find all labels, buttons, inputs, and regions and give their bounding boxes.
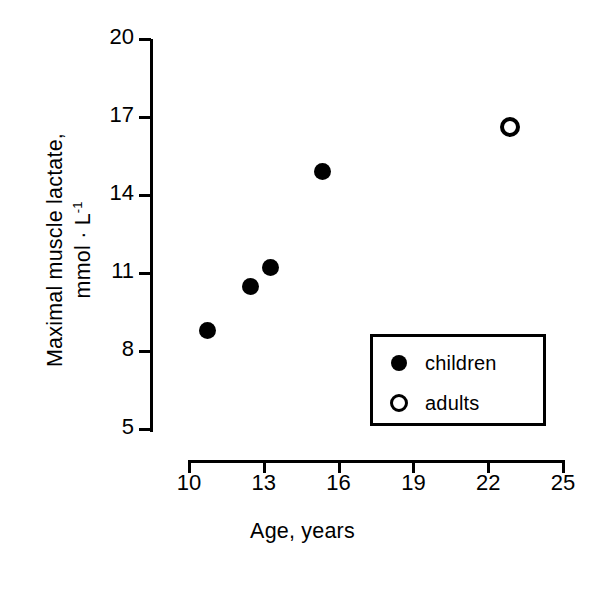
data-point-adults-0	[500, 117, 520, 137]
y-tick-label-20: 20	[88, 26, 134, 48]
y-tick-label-17: 17	[88, 104, 134, 126]
y-tick-label-8: 8	[88, 338, 134, 360]
y-axis-label-line-2: mmol · L-1	[70, 202, 98, 299]
x-tick-label-19: 19	[390, 472, 436, 494]
legend-label-children: children	[425, 352, 497, 375]
y-tick-label-11: 11	[88, 260, 134, 282]
x-tick-label-22: 22	[465, 472, 511, 494]
y-tick-17	[139, 116, 151, 119]
y-tick-label-14: 14	[88, 182, 134, 204]
scatter-chart-figure: Maximal muscle lactate, mmol · L-1 Age, …	[0, 0, 605, 589]
y-tick-14	[139, 194, 151, 197]
x-tick-label-25: 25	[540, 472, 586, 494]
y-tick-label-5: 5	[88, 416, 134, 438]
data-point-children-1	[242, 278, 259, 295]
x-axis-label: Age, years	[0, 519, 605, 544]
filled-circle-icon	[373, 355, 425, 371]
y-axis-label-line-1: Maximal muscle lactate,	[42, 133, 70, 367]
legend-label-adults: adults	[425, 392, 480, 415]
x-tick-label-13: 13	[241, 472, 287, 494]
x-tick-label-16: 16	[316, 472, 362, 494]
y-tick-5	[139, 428, 151, 431]
y-tick-11	[139, 272, 151, 275]
y-tick-8	[139, 350, 151, 353]
y-axis-label-units: mmol · L	[71, 213, 95, 298]
legend-item-adults: adults	[373, 383, 543, 423]
open-circle-icon	[373, 394, 425, 412]
y-axis-line	[150, 39, 153, 432]
x-axis-line	[188, 460, 565, 463]
x-tick-label-10: 10	[166, 472, 212, 494]
data-point-children-3	[314, 163, 331, 180]
data-point-children-0	[199, 322, 216, 339]
data-point-children-2	[262, 259, 279, 276]
y-axis-label-exponent: -1	[70, 202, 85, 214]
legend-item-children: children	[373, 343, 543, 383]
y-tick-20	[139, 38, 151, 41]
legend-box: children adults	[370, 334, 546, 426]
